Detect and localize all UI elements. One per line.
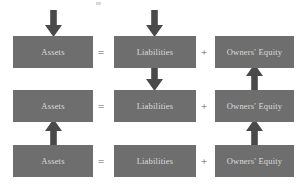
equals-sign: = <box>98 47 104 58</box>
arrow-up-icon <box>45 119 62 146</box>
arrow-down-liabilities-top <box>146 10 163 37</box>
accounting-equation-diagram: Assets = Liabilities + Owners' Equity As… <box>0 0 302 192</box>
box-label: Owners' Equity <box>227 101 283 111</box>
arrow-up-icon <box>246 64 263 91</box>
arrow-down-icon <box>146 10 163 37</box>
box-label: Assets <box>41 47 64 57</box>
operator-equals-row-3: = <box>94 154 108 168</box>
box-assets-row-3: Assets <box>13 145 93 177</box>
box-owners-equity-row-1: Owners' Equity <box>215 36 294 68</box>
arrow-up-icon <box>246 119 263 146</box>
operator-plus-row-2: + <box>197 99 211 113</box>
operator-plus-row-1: + <box>197 45 211 59</box>
operator-equals-row-2: = <box>94 99 108 113</box>
arrow-down-icon <box>45 10 62 37</box>
arrow-down-liabilities-row1-row2 <box>146 64 163 91</box>
plus-sign: + <box>201 101 207 112</box>
plus-sign: + <box>201 47 207 58</box>
arrow-down-icon <box>146 64 163 91</box>
arrow-up-owners-equity-row3-row2 <box>246 119 263 146</box>
box-owners-equity-row-2: Owners' Equity <box>215 90 294 122</box>
equals-sign: = <box>98 101 104 112</box>
operator-equals-row-1: = <box>94 45 108 59</box>
box-label: Owners' Equity <box>227 47 283 57</box>
box-label: Owners' Equity <box>227 156 283 166</box>
equals-sign: = <box>98 156 104 167</box>
box-label: Assets <box>41 101 64 111</box>
arrow-up-owners-equity-row2-row1 <box>246 64 263 91</box>
box-label: Assets <box>41 156 64 166</box>
box-label: Liabilities <box>137 47 174 57</box>
box-assets-row-2: Assets <box>13 90 93 122</box>
plus-sign: + <box>201 156 207 167</box>
box-liabilities-row-3: Liabilities <box>114 145 196 177</box>
operator-plus-row-3: + <box>197 154 211 168</box>
box-liabilities-row-1: Liabilities <box>114 36 196 68</box>
arrow-down-assets-top <box>45 10 62 37</box>
box-label: Liabilities <box>137 101 174 111</box>
box-liabilities-row-2: Liabilities <box>114 90 196 122</box>
scan-artifact-speck <box>96 2 101 5</box>
box-assets-row-1: Assets <box>13 36 93 68</box>
box-owners-equity-row-3: Owners' Equity <box>215 145 294 177</box>
arrow-up-assets-row3-row2 <box>45 119 62 146</box>
box-label: Liabilities <box>137 156 174 166</box>
